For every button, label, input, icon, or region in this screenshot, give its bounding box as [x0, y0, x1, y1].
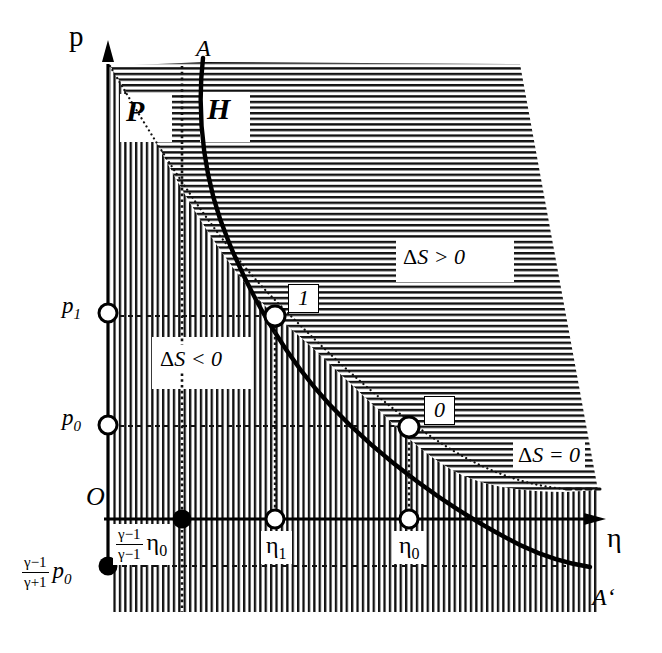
- tick-label-p1-sub: 1: [74, 306, 82, 322]
- pressure-limit-p-base: p: [53, 558, 65, 583]
- marker-eta0: [400, 510, 418, 528]
- tick-label-p0: p0: [59, 405, 84, 435]
- region-label-P: P: [126, 96, 144, 126]
- marker-state-0: [399, 417, 419, 437]
- asymptote-limit-numerator: γ−1: [116, 526, 143, 545]
- curve-label-H: H: [207, 94, 230, 124]
- hugoniot-diagram: p η O A A‘ P H ΔS > 0 ΔS < 0 ΔS = 0 p1 p…: [0, 0, 662, 653]
- label-entropy-increase: ΔS > 0: [398, 243, 470, 271]
- axis-label-p: p: [69, 22, 84, 51]
- axis-label-eta: η: [607, 524, 622, 552]
- origin-label: O: [86, 484, 105, 510]
- tick-label-eta1-sub: 1: [279, 545, 287, 562]
- asymptote-limit-denominator: γ−1: [116, 545, 143, 563]
- pressure-limit-fraction: γ−1 γ+1: [22, 554, 49, 591]
- marker-p0: [99, 416, 117, 434]
- tick-label-eta0-sub: 0: [412, 545, 420, 562]
- marker-state-1: [265, 306, 285, 326]
- asymptote-limit-eta: η0: [147, 529, 168, 555]
- pressure-limit-label: γ−1 γ+1 p0: [19, 552, 75, 593]
- s-symbol-decrease: S: [174, 346, 185, 371]
- state-point-label-1: 1: [288, 284, 319, 313]
- relation-zero: = 0: [549, 442, 580, 467]
- state-point-label-0: 0: [424, 396, 455, 425]
- marker-eta1: [266, 510, 284, 528]
- curve-end-label-A-prime: A‘: [592, 585, 615, 609]
- asymptote-limit-fraction: γ−1 γ−1: [116, 526, 143, 563]
- curve-start-label-A: A: [196, 36, 211, 60]
- tick-label-p1: p1: [59, 293, 84, 323]
- tick-label-p1-base: p: [62, 293, 74, 318]
- marker-eta0-limit: [173, 510, 192, 529]
- tick-label-eta0-base: η: [399, 532, 412, 558]
- tick-label-p0-base: p: [62, 405, 74, 430]
- pressure-limit-denominator: γ+1: [22, 573, 49, 591]
- delta-symbol-increase: Δ: [403, 244, 417, 269]
- delta-symbol-zero: Δ: [518, 442, 532, 467]
- asymptote-limit-eta-sub: 0: [159, 542, 167, 559]
- s-symbol-increase: S: [417, 244, 428, 269]
- tick-label-eta1: η1: [261, 531, 292, 564]
- tick-label-eta1-base: η: [266, 532, 279, 558]
- tick-label-eta0: η0: [394, 531, 425, 564]
- delta-symbol-decrease: Δ: [160, 346, 174, 371]
- label-entropy-decrease: ΔS < 0: [155, 345, 227, 373]
- pressure-limit-numerator: γ−1: [22, 554, 49, 573]
- pressure-limit-p-sub: 0: [64, 570, 72, 586]
- tick-label-p0-sub: 0: [74, 418, 82, 434]
- asymptote-limit-label: γ−1 γ−1 η0: [113, 524, 170, 565]
- label-entropy-zero: ΔS = 0: [513, 441, 585, 469]
- diagram-canvas: [0, 0, 662, 653]
- marker-p1: [99, 304, 117, 322]
- s-symbol-zero: S: [532, 442, 543, 467]
- pressure-limit-p: p0: [53, 558, 72, 583]
- asymptote-limit-eta-base: η: [147, 529, 160, 555]
- relation-decrease: < 0: [191, 346, 222, 371]
- relation-increase: > 0: [434, 244, 465, 269]
